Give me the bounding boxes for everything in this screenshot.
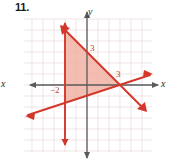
coordinate-graph [0,0,169,164]
x-intercept-label: 3 [116,69,121,79]
x-axis-label-right: x [161,78,165,89]
vertical-line-label: −2 [50,85,60,95]
y-intercept-label: 3 [90,43,95,53]
x-axis-label-left: x [1,78,5,89]
y-axis-label: y [88,6,92,17]
figure-container: 11. [0,0,169,164]
